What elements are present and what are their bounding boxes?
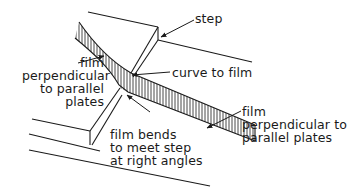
label-step: step xyxy=(195,12,222,25)
label-film-perpendicular-left: film perpendicular to parallel plates xyxy=(22,56,104,108)
label-film-bends: film bends to meet step at right angles xyxy=(110,128,203,167)
upper-plate xyxy=(88,12,252,62)
label-film-perpendicular-right: film perpendicular to parallel plates xyxy=(242,105,347,144)
diagram-canvas: step film perpendicular to parallel plat… xyxy=(0,0,361,192)
label-curve-to-film: curve to film xyxy=(172,66,252,79)
